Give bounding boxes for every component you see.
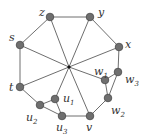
edge-z-s <box>20 17 50 45</box>
spoke-v <box>69 67 90 116</box>
label-y: y <box>97 6 105 19</box>
label-w2: w2 <box>111 104 125 119</box>
node-u3 <box>58 112 66 120</box>
node-v <box>86 112 94 120</box>
label-z: z <box>38 6 45 19</box>
node-w3 <box>114 68 122 76</box>
edge-y-x <box>90 17 119 47</box>
node-z <box>46 13 54 21</box>
label-u3: u3 <box>56 121 68 136</box>
center-point <box>67 65 70 68</box>
label-x: x <box>125 38 132 51</box>
label-u2: u2 <box>26 111 38 126</box>
node-s <box>16 41 24 49</box>
label-v: v <box>86 121 93 134</box>
label-w1: w1 <box>94 65 108 80</box>
node-t <box>16 83 24 91</box>
node-u1 <box>51 95 59 103</box>
label-s: s <box>9 31 15 44</box>
node-w2 <box>104 94 112 102</box>
node-u2 <box>36 101 44 109</box>
graph-diagram: zyxstw1w3w2vu3u1u2 <box>0 0 143 140</box>
label-w3: w3 <box>125 73 139 88</box>
label-u1: u1 <box>63 92 75 107</box>
label-t: t <box>9 81 14 94</box>
node-y <box>86 13 94 21</box>
node-x <box>115 43 123 51</box>
